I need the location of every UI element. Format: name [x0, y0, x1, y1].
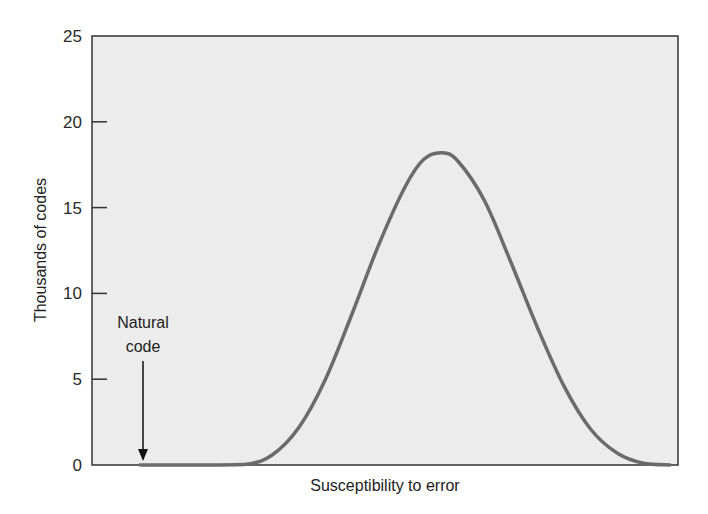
plot-area	[92, 36, 678, 465]
annotation-natural: Natural	[117, 314, 169, 331]
chart: 0510152025 Natural code Susceptibility t…	[0, 0, 708, 514]
y-axis-title: Thousands of codes	[32, 178, 49, 322]
y-tick-label: 25	[63, 27, 82, 46]
y-tick-label: 20	[63, 113, 82, 132]
y-tick-label: 0	[73, 456, 82, 475]
y-tick-label: 15	[63, 199, 82, 218]
y-tick-label: 5	[73, 370, 82, 389]
y-tick-label: 10	[63, 284, 82, 303]
annotation-code: code	[126, 338, 161, 355]
x-axis-title: Susceptibility to error	[310, 477, 460, 494]
